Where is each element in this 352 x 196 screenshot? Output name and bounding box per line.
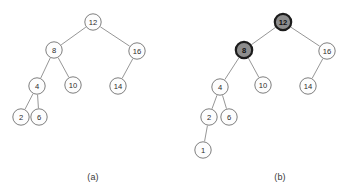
node-value-label: 16 [323,47,331,56]
tree-edge [290,27,319,46]
tree-edge [25,94,33,109]
tree-node: 12 [85,14,101,30]
node-value-label: 2 [19,113,23,122]
tree-edge [312,59,323,79]
node-value-label: 14 [304,82,312,91]
panel-a: 128164101426 [13,14,145,125]
node-value-label: 8 [242,46,246,55]
tree-diagram-canvas: 1281641014261281641014261 [0,0,352,196]
node-value-label: 4 [218,83,222,92]
tree-edge [122,59,133,79]
tree-edge [205,126,208,142]
panel-caption-a: (a) [87,172,99,182]
node-value-label: 10 [259,81,267,90]
tree-node: 4 [29,78,45,94]
panel-caption-b: (b) [274,172,286,182]
tree-node: 6 [221,109,237,125]
tree-node: 8 [46,42,62,58]
panel-b: 1281641014261 [195,14,335,158]
tree-edge [100,27,129,46]
node-value-label: 4 [35,82,39,91]
tree-node: 8 [236,42,252,58]
tree-edge [58,58,69,78]
tree-node: 16 [129,43,145,59]
tree-edge [225,57,239,79]
tree-edge [41,58,50,78]
tree-node: 2 [13,109,29,125]
tree-node: 6 [31,109,47,125]
tree-node: 10 [65,77,81,93]
node-value-label: 6 [37,113,41,122]
node-value-label: 8 [52,46,56,55]
tree-node: 12 [275,14,291,30]
tree-edge [248,58,259,78]
tree-node: 10 [255,77,271,93]
node-value-label: 2 [207,113,211,122]
tree-node: 16 [319,43,335,59]
tree-node: 14 [300,78,316,94]
node-value-label: 1 [201,146,205,155]
tree-edge [223,95,227,108]
tree-edge [212,95,217,108]
node-value-label: 10 [69,81,77,90]
edge-group [25,27,133,109]
binary-search-tree-figure: 1281641014261281641014261 (a)(b) [0,0,352,196]
node-value-label: 12 [279,18,287,27]
tree-edge [61,27,86,45]
tree-node: 2 [201,109,217,125]
node-value-label: 6 [227,113,231,122]
node-value-label: 16 [133,47,141,56]
tree-edge [251,27,276,45]
tree-node: 4 [212,79,228,95]
tree-edge [38,95,39,108]
node-value-label: 14 [114,82,122,91]
tree-node: 1 [195,142,211,158]
tree-node: 14 [110,78,126,94]
node-value-label: 12 [89,18,97,27]
